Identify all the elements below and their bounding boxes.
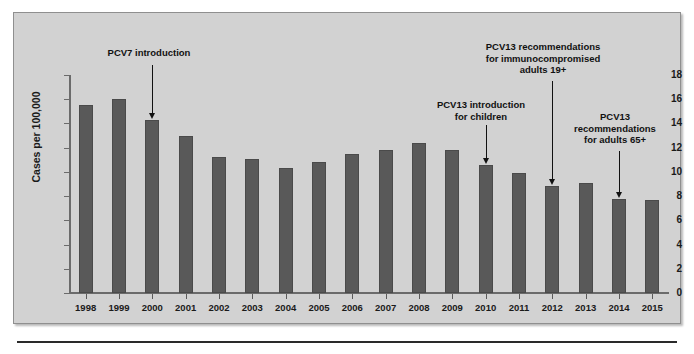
- x-tick-mark: [552, 294, 553, 299]
- x-tick-mark: [152, 294, 153, 299]
- x-tick-mark: [119, 294, 120, 299]
- bar: [545, 186, 559, 293]
- x-tick-mark: [219, 294, 220, 299]
- bar-series: [69, 75, 669, 293]
- x-axis-ticks: [69, 294, 669, 300]
- x-tick-label: 2015: [632, 302, 672, 313]
- x-axis-labels: 1998199920002001200220032004200520062007…: [69, 302, 669, 316]
- x-tick-mark: [352, 294, 353, 299]
- bar: [79, 105, 93, 293]
- bar: [312, 162, 326, 293]
- annotation-label: PCV7 introduction: [74, 47, 224, 59]
- bar: [212, 157, 226, 293]
- x-tick-mark: [619, 294, 620, 299]
- chart-figure-panel: 024681012141618 Cases per 100,000 199819…: [13, 12, 681, 324]
- bar: [345, 154, 359, 293]
- bar: [512, 173, 526, 293]
- bar: [445, 150, 459, 293]
- bar: [145, 120, 159, 293]
- screenshot-root: 024681012141618 Cases per 100,000 199819…: [0, 0, 694, 354]
- x-tick-mark: [586, 294, 587, 299]
- x-tick-mark: [519, 294, 520, 299]
- bar: [479, 165, 493, 293]
- x-tick-mark: [86, 294, 87, 299]
- annotation-label: PCV13 recommendations for immunocompromi…: [450, 41, 636, 76]
- annotation-label: PCV13 introduction for children: [406, 99, 556, 122]
- x-tick-mark: [486, 294, 487, 299]
- x-tick-mark: [652, 294, 653, 299]
- y-axis-title: Cases per 100,000: [30, 77, 42, 197]
- bar: [412, 143, 426, 293]
- x-tick-mark: [419, 294, 420, 299]
- x-tick-mark: [319, 294, 320, 299]
- x-tick-mark: [252, 294, 253, 299]
- bar: [279, 168, 293, 293]
- bar: [245, 159, 259, 293]
- bar-chart: 024681012141618 Cases per 100,000 199819…: [14, 13, 682, 325]
- bar: [645, 200, 659, 293]
- bar: [112, 99, 126, 293]
- annotation-label: PCV13 recommendations for adults 65+: [551, 111, 679, 146]
- horizontal-rule: [17, 341, 677, 343]
- x-tick-mark: [286, 294, 287, 299]
- x-tick-mark: [186, 294, 187, 299]
- bar: [579, 183, 593, 293]
- x-tick-mark: [452, 294, 453, 299]
- bar: [179, 136, 193, 293]
- x-tick-mark: [386, 294, 387, 299]
- bar: [612, 199, 626, 293]
- bar: [379, 150, 393, 293]
